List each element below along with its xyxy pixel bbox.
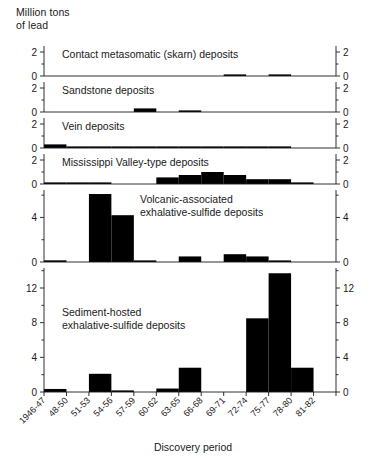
unit-line-2: of lead <box>16 19 48 31</box>
y-tick-label-left: 2 <box>31 155 37 166</box>
panel-mississippi-valley-type: 0022Mississippi Valley-type deposits <box>31 154 349 190</box>
x-tick-label: 78-80 <box>271 395 294 418</box>
bar <box>89 194 111 262</box>
panel-title-sandstone: Sandstone deposits <box>62 84 154 96</box>
bar <box>291 368 313 392</box>
y-tick-label-right: 2 <box>343 155 349 166</box>
y-tick-label-right: 2 <box>343 83 349 94</box>
bar <box>156 389 178 392</box>
y-tick-label-right: 8 <box>343 317 349 328</box>
y-tick-label-right: 0 <box>343 179 349 190</box>
bar <box>269 179 291 184</box>
panel-vein: 0022Vein deposits <box>31 118 349 154</box>
y-tick-label-right: 12 <box>343 283 355 294</box>
bar <box>269 273 291 392</box>
bar <box>201 172 223 184</box>
bar <box>44 389 66 392</box>
bar <box>89 374 111 392</box>
y-tick-label-left: 0 <box>31 107 37 118</box>
x-tick-label: 63-65 <box>159 395 182 418</box>
panel-title-sediment-hosted: exhalative-sulfide deposits <box>62 319 185 331</box>
x-tick-label: 66-68 <box>181 395 204 418</box>
panel-title-volcanic-associated: exhalative-sulfide deposits <box>140 206 263 218</box>
x-tick-label: 60-62 <box>136 395 159 418</box>
panel-contact-metasomatic: 0022Contact metasomatic (skarn) deposits <box>31 46 349 82</box>
chart-figure: Million tonsof lead 0022Contact metasoma… <box>0 0 386 458</box>
y-tick-label-left: 0 <box>31 387 37 398</box>
bar <box>246 256 268 262</box>
y-tick-label-right: 2 <box>343 119 349 130</box>
y-tick-label-right: 4 <box>343 212 349 223</box>
x-tick-label: 51-53 <box>69 395 92 418</box>
bar <box>44 144 66 148</box>
y-tick-label-left: 0 <box>31 143 37 154</box>
bar <box>156 177 178 184</box>
y-tick-label-right: 0 <box>343 143 349 154</box>
y-tick-label-left: 4 <box>31 212 37 223</box>
y-tick-label-right: 0 <box>343 387 349 398</box>
y-tick-label-left: 2 <box>31 119 37 130</box>
y-tick-label-left: 2 <box>31 47 37 58</box>
x-tick-label: 1946-47 <box>17 395 47 425</box>
y-tick-label-left: 0 <box>31 179 37 190</box>
bar <box>224 175 246 184</box>
bar <box>134 108 156 112</box>
y-tick-label-right: 4 <box>343 352 349 363</box>
y-tick-label-left: 8 <box>31 317 37 328</box>
bar <box>111 215 133 262</box>
panel-title-contact-metasomatic: Contact metasomatic (skarn) deposits <box>62 48 238 60</box>
y-tick-label-left: 2 <box>31 83 37 94</box>
panel-sandstone: 0022Sandstone deposits <box>31 82 349 118</box>
y-tick-label-right: 2 <box>343 47 349 58</box>
x-axis-label: Discovery period <box>154 441 232 453</box>
y-tick-label-right: 0 <box>343 107 349 118</box>
unit-line-1: Million tons <box>16 6 70 18</box>
y-tick-label-right: 0 <box>343 257 349 268</box>
x-tick-label: 75-77 <box>249 395 272 418</box>
panels-layer: 0022Contact metasomatic (skarn) deposits… <box>26 46 355 398</box>
bar <box>224 254 246 262</box>
y-axis-unit-label: Million tonsof lead <box>16 6 70 32</box>
y-tick-label-left: 0 <box>31 257 37 268</box>
x-tick-label: 54-56 <box>91 395 114 418</box>
panel-title-sediment-hosted: Sediment-hosted <box>62 306 142 318</box>
bar <box>246 179 268 184</box>
bar <box>179 368 201 392</box>
x-tick-label: 57-59 <box>114 395 137 418</box>
y-tick-label-left: 0 <box>31 71 37 82</box>
panel-volcanic-associated: 0044Volcanic-associatedexhalative-sulfid… <box>31 190 349 268</box>
panel-title-vein: Vein deposits <box>62 120 124 132</box>
x-tick-label: 81-82 <box>294 395 317 418</box>
y-tick-label-left: 12 <box>26 283 38 294</box>
bar <box>179 175 201 184</box>
y-tick-label-left: 4 <box>31 352 37 363</box>
x-tick-label: 69-71 <box>204 395 227 418</box>
panel-title-volcanic-associated: Volcanic-associated <box>140 193 233 205</box>
category-axis: 1946-4748-5051-5354-5657-5960-6263-6566-… <box>17 392 336 426</box>
bar <box>246 318 268 392</box>
multi-panel-histogram: 0022Contact metasomatic (skarn) deposits… <box>0 0 386 458</box>
y-tick-label-right: 0 <box>343 71 349 82</box>
panel-title-mississippi-valley-type: Mississippi Valley-type deposits <box>62 156 209 168</box>
x-tick-label: 48-50 <box>47 395 70 418</box>
bar <box>179 256 201 262</box>
x-tick-label: 72-74 <box>226 395 249 418</box>
panel-sediment-hosted: 0044881212Sediment-hostedexhalative-sulf… <box>26 268 355 398</box>
